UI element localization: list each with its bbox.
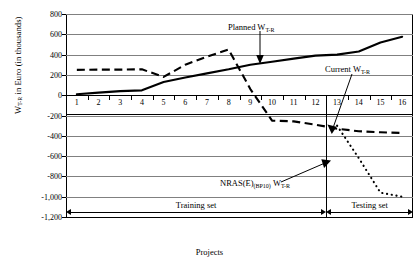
y-tick-label-200: 200 bbox=[16, 70, 62, 79]
annotation-current-subscript: T-R bbox=[361, 69, 370, 75]
annotation-planned-subscript: T-R bbox=[265, 27, 274, 33]
gridline--1200 bbox=[66, 217, 413, 218]
y-tick-mark--1200 bbox=[62, 217, 66, 218]
annotation-nras-text-w: W bbox=[273, 178, 281, 188]
series-nras-line bbox=[337, 126, 402, 197]
annotation-planned-text: Planned W bbox=[228, 22, 265, 32]
y-tick-label--1000: -1,000 bbox=[16, 192, 62, 201]
y-tick-label--400: -400 bbox=[16, 131, 62, 140]
y-tick-label--800: -800 bbox=[16, 172, 62, 181]
y-tick-label-800: 800 bbox=[16, 10, 62, 19]
y-tick-label-0: 0 bbox=[16, 91, 62, 100]
y-tick-label-400: 400 bbox=[16, 50, 62, 59]
chart-container: WT-R in Euro (in thousands) Projects 800… bbox=[0, 0, 419, 261]
x-axis-title: Projects bbox=[0, 247, 419, 257]
y-tick-label--200: -200 bbox=[16, 111, 62, 120]
annotation-nras-label: NRAS(E)(BP10)WT-R bbox=[220, 178, 290, 189]
y-tick-label--1200: -1,200 bbox=[16, 213, 62, 222]
annotation-nras-subscript-model: (BP10) bbox=[254, 183, 271, 189]
training-testing-divider bbox=[326, 95, 327, 217]
annotation-nras-text: NRAS(E) bbox=[220, 178, 254, 188]
y-tick-label-600: 600 bbox=[16, 30, 62, 39]
annotation-nras-subscript-tr: T-R bbox=[281, 183, 290, 189]
y-tick-label--600: -600 bbox=[16, 152, 62, 161]
annotation-current-text: Current W bbox=[325, 64, 361, 74]
annotation-current-label: Current WT-R bbox=[325, 64, 370, 75]
annotation-planned-label: Planned WT-R bbox=[228, 22, 275, 33]
